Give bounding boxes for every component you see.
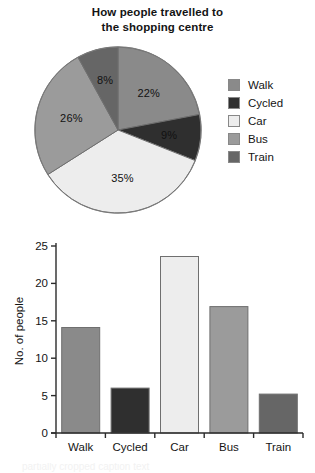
legend-swatch-icon: [228, 133, 240, 145]
legend-item-label: Train: [248, 151, 274, 163]
x-axis-category-label: Car: [170, 441, 189, 453]
legend-item-label: Car: [248, 115, 267, 127]
y-axis-tick-label: 10: [22, 352, 48, 364]
bar: [259, 394, 297, 433]
pie-slice-value-label: 22%: [137, 87, 160, 99]
x-axis-category-label: Bus: [219, 441, 239, 453]
y-axis-tick-label: 5: [22, 390, 48, 402]
legend-item-bus[interactable]: Bus: [228, 130, 313, 148]
legend-item-label: Bus: [248, 133, 268, 145]
y-axis-tick-label: 15: [22, 315, 48, 327]
bar: [210, 307, 248, 433]
y-axis-tick-label: 0: [22, 427, 48, 439]
legend-item-car[interactable]: Car: [228, 112, 313, 130]
bar: [62, 328, 100, 434]
bar: [161, 257, 199, 434]
bar-chart: No. of people 0510152025 WalkCycledCarBu…: [0, 235, 315, 473]
pie-legend: WalkCycledCarBusTrain: [228, 76, 313, 166]
legend-item-cycled[interactable]: Cycled: [228, 94, 313, 112]
page-title: How people travelled to the shopping cen…: [0, 5, 315, 35]
legend-swatch-icon: [228, 151, 240, 163]
legend-swatch-icon: [228, 97, 240, 109]
bottom-caption: partially cropped caption text: [22, 463, 149, 472]
pie-slice-value-label: 26%: [60, 112, 83, 124]
legend-swatch-icon: [228, 79, 240, 91]
pie-slice-value-label: 35%: [111, 172, 134, 184]
legend-item-label: Walk: [248, 79, 273, 91]
pie-slice-value-label: 9%: [161, 129, 177, 141]
page-title-line-1: How people travelled to: [0, 5, 315, 20]
bottom-caption-strip: partially cropped caption text: [0, 463, 315, 473]
y-axis-tick-label: 20: [22, 277, 48, 289]
legend-item-walk[interactable]: Walk: [228, 76, 313, 94]
pie-slice-value-label: 8%: [97, 74, 113, 86]
x-axis-category-label: Walk: [68, 441, 93, 453]
legend-swatch-icon: [228, 115, 240, 127]
page-title-line-2: the shopping centre: [0, 20, 315, 35]
pie-chart: 22%9%35%26%8%: [34, 46, 202, 214]
legend-item-train[interactable]: Train: [228, 148, 313, 166]
legend-item-label: Cycled: [248, 97, 283, 109]
y-axis-tick-label: 25: [22, 240, 48, 252]
x-axis-category-label: Cycled: [113, 441, 148, 453]
bar: [111, 388, 149, 433]
x-axis-category-label: Train: [265, 441, 291, 453]
